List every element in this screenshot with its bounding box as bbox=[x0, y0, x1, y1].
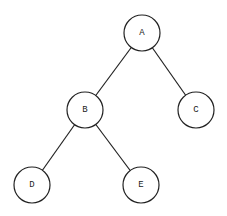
node-c: C bbox=[178, 92, 214, 128]
node-e-label: E bbox=[138, 180, 143, 190]
node-e: E bbox=[123, 167, 159, 203]
node-b: B bbox=[67, 92, 103, 128]
node-a: A bbox=[124, 15, 160, 51]
node-b-label: B bbox=[82, 105, 88, 115]
node-c-label: C bbox=[193, 105, 199, 115]
edges-layer bbox=[32, 33, 196, 185]
nodes-layer: A B C D E bbox=[14, 15, 214, 203]
tree-diagram: A B C D E bbox=[0, 0, 227, 216]
node-d: D bbox=[14, 167, 50, 203]
node-a-label: A bbox=[139, 28, 145, 38]
node-d-label: D bbox=[29, 180, 34, 190]
